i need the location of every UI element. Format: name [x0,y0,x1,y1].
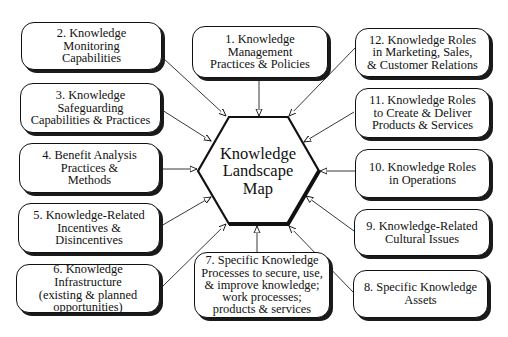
arrow-3-to-center [162,110,211,141]
node-2-knowledge-monitoring: 2. Knowledge Monitoring Capabilities [21,22,162,70]
node-5-incentives: 5. Knowledge-Related Incentives & Disinc… [18,203,160,253]
arrow-5-to-center [161,197,211,226]
node-9-cultural-issues: 9. Knowledge-Related Cultural Issues [354,209,490,256]
node-12-marketing-sales-roles: 12. Knowledge Roles in Marketing, Sales,… [355,28,490,77]
node-11-create-deliver-roles: 11. Knowledge Roles to Create & Deliver … [355,88,490,138]
arrow-9-to-center [306,196,354,231]
node-10-operations-roles: 10. Knowledge Roles in Operations [355,149,490,198]
center-label: Knowledge Landscape Map [208,140,308,202]
node-7-specific-knowledge-processes: 7. Specific Knowledge Processes to secur… [194,252,330,318]
node-4-benefit-analysis: 4. Benefit Analysis Practices & Methods [19,143,160,193]
arrow-11-to-center [304,112,354,142]
node-3-knowledge-safeguarding: 3. Knowledge Safeguarding Capabilities &… [20,83,161,133]
node-1-km-practices-policies: 1. Knowledge Management Practices & Poli… [192,26,328,78]
node-6-knowledge-infrastructure: 6. Knowledge Infrastructure (existing & … [16,264,160,313]
node-8-knowledge-assets: 8. Specific Knowledge Assets [353,270,488,318]
